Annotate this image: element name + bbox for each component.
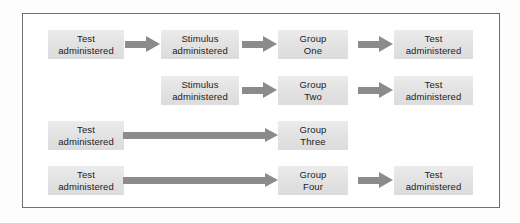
arrow-head <box>379 172 393 188</box>
arrow-shaft <box>123 177 266 184</box>
node-r4-group: Group Four <box>278 166 348 195</box>
node-label-line1: Test <box>425 33 443 45</box>
node-label-line1: Test <box>425 169 443 181</box>
node-label-line2: administered <box>58 181 114 193</box>
node-label-line2: administered <box>406 91 462 103</box>
arrow-shaft <box>358 87 380 94</box>
node-r1-stimulus: Stimulus administered <box>161 30 239 59</box>
node-label-line1: Group <box>300 124 327 136</box>
node-r1-group: Group One <box>278 30 348 59</box>
arrow-r1-group-to-posttest <box>358 36 393 52</box>
node-r2-group: Group Two <box>278 76 348 105</box>
arrow-r1-stimulus-to-group <box>242 36 277 52</box>
arrow-head <box>379 82 393 98</box>
arrow-shaft <box>125 41 147 48</box>
arrow-head <box>146 36 160 52</box>
diagram-canvas: Test administered Stimulus administered … <box>0 0 520 223</box>
node-r2-posttest: Test administered <box>394 76 473 105</box>
node-label-line1: Stimulus <box>181 79 218 91</box>
arrow-shaft <box>123 132 266 139</box>
node-label-line1: Group <box>300 169 327 181</box>
node-label-line1: Group <box>300 33 327 45</box>
arrow-r2-group-to-posttest <box>358 82 393 98</box>
arrow-r3-pretest-to-group <box>123 128 278 142</box>
arrow-r2-stimulus-to-group <box>242 82 277 98</box>
node-r2-stimulus: Stimulus administered <box>161 76 239 105</box>
node-label-line2: Three <box>300 136 325 148</box>
node-label-line2: administered <box>172 91 228 103</box>
node-r3-pretest: Test administered <box>48 121 124 150</box>
node-label-line1: Test <box>425 79 443 91</box>
arrow-shaft <box>358 41 380 48</box>
node-r4-posttest: Test administered <box>394 166 473 195</box>
arrow-head <box>263 36 277 52</box>
arrow-head <box>379 36 393 52</box>
node-label-line1: Test <box>77 124 95 136</box>
arrow-r4-pretest-to-group <box>123 173 278 187</box>
arrow-head <box>265 173 278 187</box>
node-r3-group: Group Three <box>278 121 348 150</box>
node-r4-pretest: Test administered <box>48 166 124 195</box>
node-label-line2: Four <box>303 181 323 193</box>
arrow-shaft <box>242 41 264 48</box>
arrow-shaft <box>358 177 380 184</box>
node-label-line1: Test <box>77 33 95 45</box>
arrow-head <box>263 82 277 98</box>
node-label-line2: administered <box>406 181 462 193</box>
node-label-line1: Test <box>77 169 95 181</box>
arrow-r4-group-to-posttest <box>358 172 393 188</box>
node-label-line2: One <box>304 45 322 57</box>
node-label-line1: Group <box>300 79 327 91</box>
diagram-frame: Test administered Stimulus administered … <box>22 13 500 208</box>
arrow-head <box>265 128 278 142</box>
node-r1-pretest: Test administered <box>48 30 124 59</box>
node-label-line2: Two <box>304 91 322 103</box>
node-label-line2: administered <box>58 45 114 57</box>
node-label-line2: administered <box>58 136 114 148</box>
node-label-line2: administered <box>172 45 228 57</box>
arrow-shaft <box>242 87 264 94</box>
node-label-line1: Stimulus <box>181 33 218 45</box>
node-label-line2: administered <box>406 45 462 57</box>
node-r1-posttest: Test administered <box>394 30 473 59</box>
arrow-r1-pretest-to-stimulus <box>125 36 160 52</box>
